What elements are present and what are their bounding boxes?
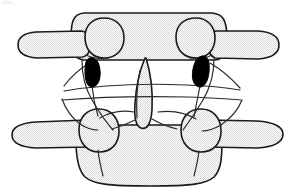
left-pedicle-shadow xyxy=(85,58,100,87)
upper-right-transverse-process xyxy=(208,31,279,59)
upper-left-transverse-process xyxy=(18,31,90,58)
lower-right-inferior-articular-facet xyxy=(181,109,221,152)
upper-left-superior-articular-facet xyxy=(85,18,124,58)
figure-root: cont. xyxy=(0,0,297,195)
bone-structure-group xyxy=(12,13,283,186)
upper-right-superior-articular-facet xyxy=(176,18,215,58)
right-lamina-line xyxy=(210,63,240,88)
vertebrae-anatomical-illustration xyxy=(0,0,297,195)
